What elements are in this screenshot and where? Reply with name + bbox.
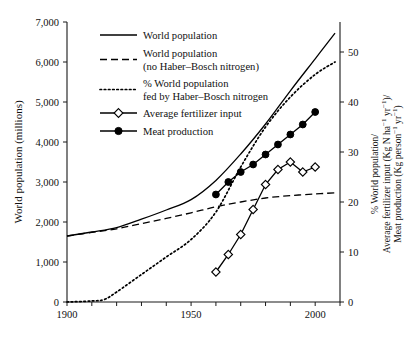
y-left-tick-label: 3,000 [35, 177, 59, 188]
y-right-tick-label: 10 [348, 247, 359, 258]
legend-entry-5[interactable]: Meat production [100, 126, 214, 137]
y-axis-left: 01,0002,0003,0004,0005,0006,0007,000 [35, 17, 67, 308]
legend-label: fed by Haber–Bosch nitrogen [143, 91, 269, 102]
series-4 [212, 158, 320, 276]
data-point-marker [312, 109, 319, 116]
series-layer [67, 33, 335, 302]
data-point-marker [237, 169, 244, 176]
legend-label: (no Haber–Bosch nitrogen) [143, 61, 259, 73]
data-point-marker [311, 163, 319, 171]
data-point-marker [237, 230, 245, 238]
y-left-tick-label: 4,000 [35, 137, 59, 148]
data-point-marker [225, 179, 232, 186]
y-right-tick-label: 50 [348, 47, 359, 58]
legend-entry-1[interactable]: World population [100, 30, 218, 41]
data-point-marker [262, 151, 269, 158]
data-point-marker [275, 141, 282, 148]
legend-open-diamond-icon [114, 109, 123, 118]
data-point-marker [249, 205, 257, 213]
legend-layer: World populationWorld population(no Habe… [100, 30, 269, 137]
x-tick-label: 2000 [305, 309, 326, 320]
legend-label: Meat production [143, 126, 214, 137]
legend-closed-circle-icon [115, 127, 122, 134]
legend-label: World population [143, 30, 218, 41]
chart-figure: 190019502000 01,0002,0003,0004,0005,0006… [0, 0, 420, 350]
y-axis-left-title: World population (millions) [12, 100, 25, 223]
data-point-marker [212, 268, 220, 276]
y-right-tick-label: 20 [348, 197, 359, 208]
legend-label: World population [143, 48, 218, 59]
data-point-marker [299, 121, 306, 128]
y-left-tick-label: 7,000 [35, 17, 59, 28]
data-point-marker [250, 161, 257, 168]
legend-entry-2[interactable]: World population(no Haber–Bosch nitrogen… [100, 48, 259, 73]
legend-entry-3[interactable]: % World populationfed by Haber–Bosch nit… [100, 78, 269, 102]
data-point-marker [224, 250, 232, 258]
y-right-tick-label: 40 [348, 97, 359, 108]
x-tick-label: 1900 [57, 309, 78, 320]
y-axis-right-title-line: % World population/ [369, 134, 380, 214]
data-point-marker [213, 191, 220, 198]
x-tick-label: 1950 [181, 309, 202, 320]
y-axis-right-title-line: Average fertilizer input (Kg N ha−1 yr−1… [380, 94, 393, 253]
legend-label: % World population [143, 78, 229, 89]
y-left-tick-label: 5,000 [35, 97, 59, 108]
y-right-tick-label: 30 [348, 147, 359, 158]
y-left-tick-label: 2,000 [35, 217, 59, 228]
legend-label: Average fertilizer input [143, 108, 242, 119]
legend-entry-4[interactable]: Average fertilizer input [100, 108, 242, 119]
x-axis: 190019502000 [57, 302, 341, 320]
y-left-tick-label: 6,000 [35, 57, 59, 68]
y-axis-right: 01020304050 [340, 47, 359, 308]
y-right-tick-label: 0 [348, 297, 353, 308]
data-point-marker [287, 131, 294, 138]
chart-svg: 190019502000 01,0002,0003,0004,0005,0006… [0, 0, 420, 350]
y-axis-right-title-line: Meat production (Kg person−1 yr−1) [391, 105, 404, 242]
y-left-tick-label: 0 [54, 297, 59, 308]
y-left-tick-label: 1,000 [35, 257, 59, 268]
